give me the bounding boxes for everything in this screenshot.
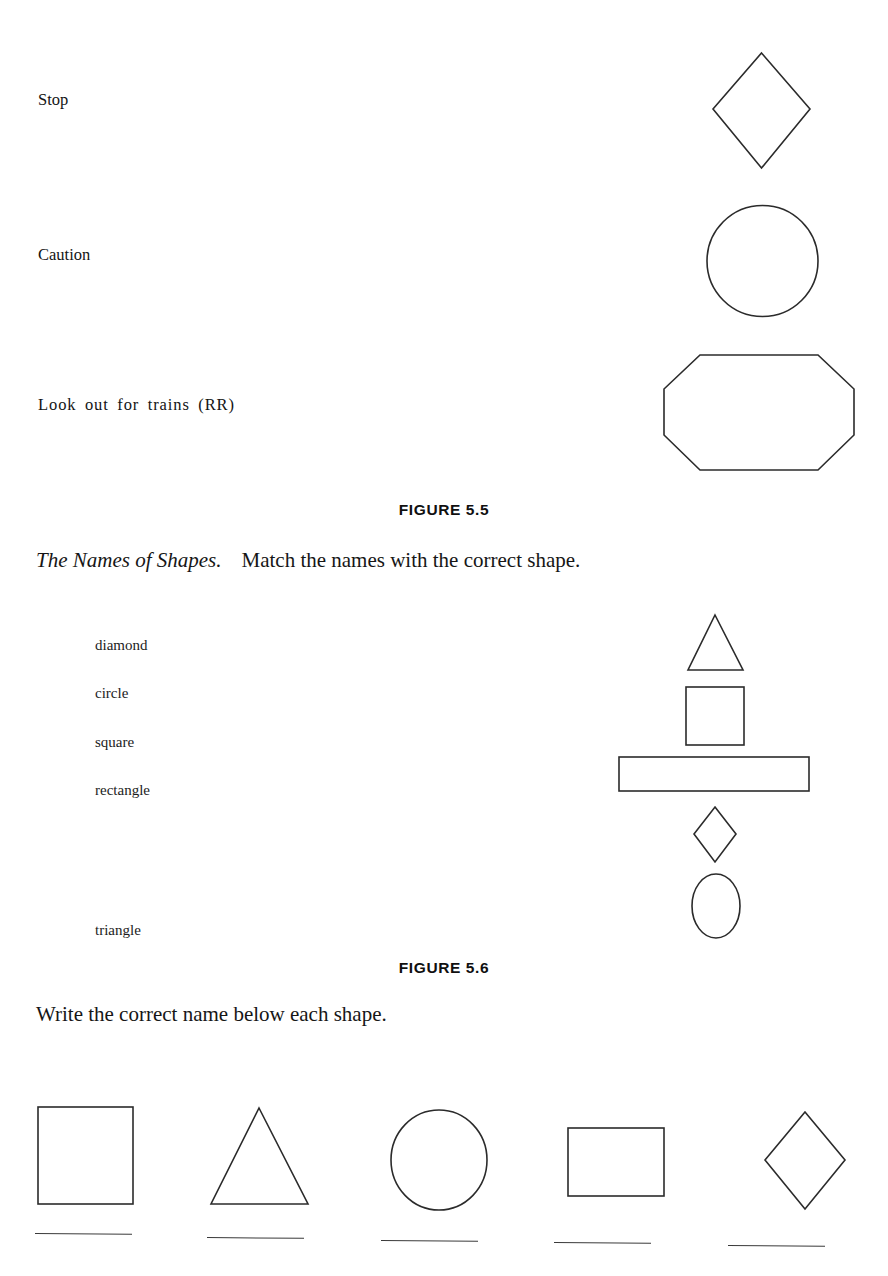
rectangle-shape-answer-4[interactable] — [566, 1126, 668, 1199]
square-shape-match[interactable] — [684, 685, 746, 747]
figure-5-5-label-caution: Caution — [38, 247, 90, 264]
answer-line-1[interactable] — [35, 1233, 132, 1235]
figure-5-5-caption: FIGURE 5.5 — [0, 502, 888, 518]
octagon-shape-railroad — [662, 353, 858, 473]
figure-5-5-label-stop: Stop — [38, 92, 68, 109]
names-of-shapes-instruction: Match the names with the correct shape. — [242, 548, 581, 572]
diamond-shape-stop — [711, 51, 812, 170]
word-triangle[interactable]: triangle — [95, 923, 141, 938]
answer-line-3[interactable] — [381, 1240, 478, 1242]
circle-shape-caution — [704, 202, 821, 320]
circle-shape-answer-3[interactable] — [389, 1107, 491, 1213]
triangle-shape-answer-2[interactable] — [209, 1105, 311, 1207]
word-square[interactable]: square — [95, 735, 134, 750]
word-rectangle[interactable]: rectangle — [95, 783, 150, 798]
worksheet-page: Stop Caution Look out for trains (RR) FI… — [0, 0, 888, 1276]
word-diamond[interactable]: diamond — [95, 638, 148, 653]
figure-5-5-label-railroad: Look out for trains (RR) — [38, 397, 235, 414]
write-names-instruction: Write the correct name below each shape. — [36, 1004, 387, 1025]
names-of-shapes-title: The Names of Shapes. — [36, 548, 222, 572]
answer-line-4[interactable] — [554, 1242, 651, 1244]
triangle-shape-match[interactable] — [686, 613, 746, 673]
diamond-shape-match[interactable] — [691, 805, 739, 865]
answer-line-2[interactable] — [207, 1237, 304, 1239]
diamond-shape-answer-5[interactable] — [762, 1109, 848, 1212]
figure-5-6-caption: FIGURE 5.6 — [0, 960, 888, 976]
answer-line-5[interactable] — [728, 1245, 825, 1247]
rectangle-shape-match[interactable] — [617, 755, 811, 794]
square-shape-answer-1[interactable] — [36, 1105, 136, 1207]
names-of-shapes-heading-line: The Names of Shapes.Match the names with… — [36, 550, 580, 571]
word-circle[interactable]: circle — [95, 686, 128, 701]
circle-shape-match[interactable] — [690, 872, 744, 942]
